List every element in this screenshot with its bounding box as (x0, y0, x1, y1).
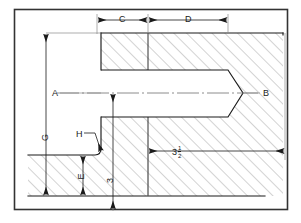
fraction-half: 1 2 (178, 145, 181, 159)
dimension-label-c: C (119, 15, 126, 24)
drawing-svg (0, 0, 301, 223)
dimension-label-g: G (41, 134, 50, 141)
reference-label-h: H (76, 130, 83, 139)
dimension-label-3: 3 (106, 178, 115, 183)
fraction-whole: 3 (172, 148, 177, 157)
leader-h (84, 133, 101, 151)
dimension-label-d: D (185, 15, 192, 24)
fraction-denominator: 2 (178, 153, 181, 159)
dimension-label-three-and-half: 3 1 2 (172, 145, 181, 159)
fraction-numerator: 1 (178, 145, 181, 151)
reference-label-b: B (263, 89, 269, 98)
technical-drawing-canvas: C D A B H G E 3 3 1 2 (0, 0, 301, 223)
reference-label-a: A (52, 89, 58, 98)
section-hatching (20, 25, 295, 205)
dimension-label-e: E (77, 173, 86, 179)
